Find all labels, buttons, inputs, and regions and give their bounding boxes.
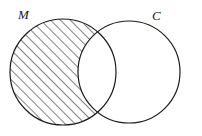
venn-diagram-canvas: M C [0,0,202,136]
set-label-m: M [17,7,30,22]
shaded-region-m-minus-c [0,0,202,136]
venn-diagram-figure: M C [0,0,202,136]
set-label-c: C [152,8,161,23]
